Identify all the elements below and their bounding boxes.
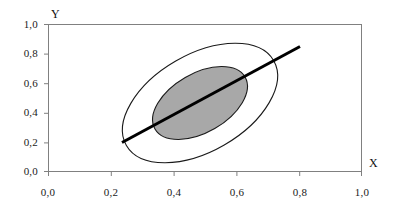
- x-tick-label-1: 0,0: [31, 186, 65, 198]
- y-tick-label-4: 0,4: [8, 106, 38, 118]
- plot-canvas: [0, 0, 394, 210]
- y-tick-label-3: 0,6: [8, 77, 38, 89]
- x-tick-label-6: 1,0: [345, 186, 379, 198]
- x-axis-title: X: [369, 156, 378, 171]
- x-tick-label-5: 0,8: [283, 186, 317, 198]
- x-tick-label-2: 0,2: [94, 186, 128, 198]
- chart-figure: 1,0 0,8 0,6 0,4 0,2 0,0 0,0 0,2 0,4 0,6 …: [0, 0, 394, 210]
- x-tick-label-3: 0,4: [157, 186, 191, 198]
- y-tick-label-5: 0,2: [8, 136, 38, 148]
- y-axis-title: Y: [51, 7, 60, 22]
- y-tick-label-1: 1,0: [8, 18, 38, 30]
- y-tick-label-6: 0,0: [8, 165, 38, 177]
- y-tick-label-2: 0,8: [8, 47, 38, 59]
- y-axis-ticks: [44, 25, 49, 172]
- x-axis-ticks: [49, 172, 362, 177]
- x-tick-label-4: 0,6: [220, 186, 254, 198]
